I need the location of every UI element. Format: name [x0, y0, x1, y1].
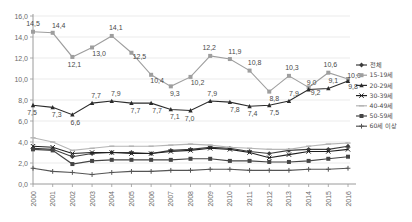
data-label: 9,3 [170, 90, 180, 97]
data-label: 7,9 [207, 90, 217, 97]
x-axis-tick-label: 2014 [305, 191, 312, 207]
data-point [359, 63, 364, 68]
x-axis-tick-label: 2001 [49, 191, 56, 207]
data-point [326, 71, 330, 75]
x-axis-tick-label: 2009 [207, 191, 214, 207]
data-point [129, 169, 134, 174]
y-axis-tick-label: 14,0 [14, 34, 28, 41]
data-label: 7,5 [269, 109, 279, 116]
data-point [70, 170, 75, 175]
data-label: 7,8 [230, 106, 240, 113]
data-label: 7,7 [152, 107, 162, 114]
y-axis-tick-label: 16,0 [14, 13, 28, 20]
data-label: 12,1 [68, 61, 82, 68]
data-point [267, 151, 272, 156]
data-point [189, 157, 193, 161]
y-axis-tick-label: 8,0 [18, 97, 28, 104]
data-label: 14,1 [109, 24, 123, 31]
data-point [247, 168, 252, 173]
legend-item-15-19세[interactable]: 15-19세 [356, 71, 393, 79]
data-label: 12,5 [133, 53, 147, 60]
data-point [346, 155, 350, 159]
data-point [168, 168, 173, 173]
x-axis-tick-label: 2016 [345, 191, 352, 207]
data-point [208, 167, 213, 172]
data-point [248, 69, 252, 73]
x-axis-tick-label: 2010 [226, 191, 233, 207]
data-point [169, 84, 173, 88]
legend-item-전체[interactable]: 전체 [356, 61, 382, 69]
x-axis-tick-label: 2002 [69, 191, 76, 207]
data-point [287, 99, 291, 103]
data-point [169, 158, 173, 162]
data-label: 7,4 [248, 110, 258, 117]
data-point [359, 124, 364, 129]
data-label: 7,7 [131, 107, 141, 114]
data-point [70, 55, 74, 59]
data-point [70, 162, 74, 166]
data-label: 7,1 [170, 113, 180, 120]
legend-item-50-59세[interactable]: 50-59세 [356, 112, 393, 120]
x-axis-tick-label: 2011 [246, 191, 253, 206]
data-point [306, 167, 311, 172]
data-label: 7,7 [91, 92, 101, 99]
data-label: 10,6 [324, 61, 338, 68]
data-point [31, 166, 36, 171]
data-point [248, 159, 252, 163]
data-point [50, 169, 55, 174]
data-point [51, 148, 55, 152]
x-axis-tick-label: 2003 [89, 191, 96, 207]
legend-label: 15-19세 [370, 71, 394, 79]
legend-label: 50-59세 [370, 112, 394, 120]
data-point [287, 168, 292, 173]
legend-item-20-29세[interactable]: 20-29세 [356, 82, 393, 90]
x-axis-tick-label: 2012 [266, 191, 273, 207]
data-point [149, 158, 153, 162]
data-label: 14,5 [26, 20, 40, 27]
data-label: 11,9 [228, 48, 241, 55]
legend-label: 30-39세 [370, 92, 394, 100]
data-label: 6,6 [71, 119, 81, 126]
data-point [90, 159, 94, 163]
legend-label: 20-29세 [370, 82, 394, 90]
data-label: 10,2 [191, 79, 205, 86]
legend-label: 60세 이상 [370, 122, 398, 130]
x-axis-tick-label: 2013 [285, 191, 292, 207]
data-point [267, 90, 271, 94]
legend-item-30-39세[interactable]: 30-39세 [356, 92, 393, 100]
data-point [31, 30, 35, 34]
data-label: 9,0 [307, 79, 317, 86]
data-point [228, 159, 232, 163]
data-label: 10,4 [150, 77, 164, 84]
y-axis-tick-label: 12,0 [14, 55, 28, 62]
data-point [326, 167, 331, 172]
x-axis-tick-label: 2015 [325, 191, 332, 207]
data-point [360, 114, 364, 118]
data-point [227, 167, 232, 172]
data-point [326, 157, 330, 161]
data-label: 9,8 [348, 83, 358, 90]
y-axis-tick-label: 4,0 [18, 139, 28, 146]
y-axis-tick-label: 10,0 [14, 76, 28, 83]
legend-item-60세 이상[interactable]: 60세 이상 [356, 122, 397, 130]
legend-item-40-49세[interactable]: 40-49세 [356, 102, 393, 110]
data-label: 10,8 [248, 59, 262, 66]
data-point [287, 74, 291, 78]
data-label: 13,0 [92, 50, 106, 57]
line-chart: 0,02,04,06,08,010,012,014,016,0200020012… [0, 0, 412, 222]
data-point [228, 57, 232, 61]
data-label: 14,4 [52, 22, 66, 29]
y-axis-tick-label: 6,0 [18, 118, 28, 125]
data-point [208, 157, 212, 161]
data-label: 7,9 [289, 90, 299, 97]
data-point [307, 159, 311, 163]
data-point [51, 31, 55, 35]
data-label: 10,3 [285, 64, 299, 71]
x-axis-tick-label: 2008 [187, 191, 194, 207]
legend-label: 전체 [370, 61, 382, 69]
data-point [360, 73, 364, 77]
data-label: 12,2 [202, 44, 216, 51]
x-axis-tick-label: 2005 [128, 191, 135, 207]
data-point [110, 34, 114, 38]
y-axis-tick-label: 0,0 [18, 181, 28, 188]
